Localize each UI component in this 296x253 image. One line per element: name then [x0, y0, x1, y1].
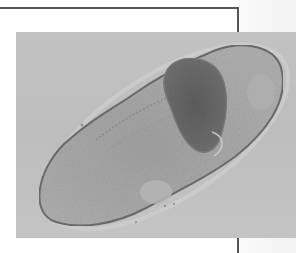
cell-illustration — [16, 32, 296, 238]
micrograph-photo — [16, 32, 296, 238]
frame-line-top — [0, 7, 239, 9]
